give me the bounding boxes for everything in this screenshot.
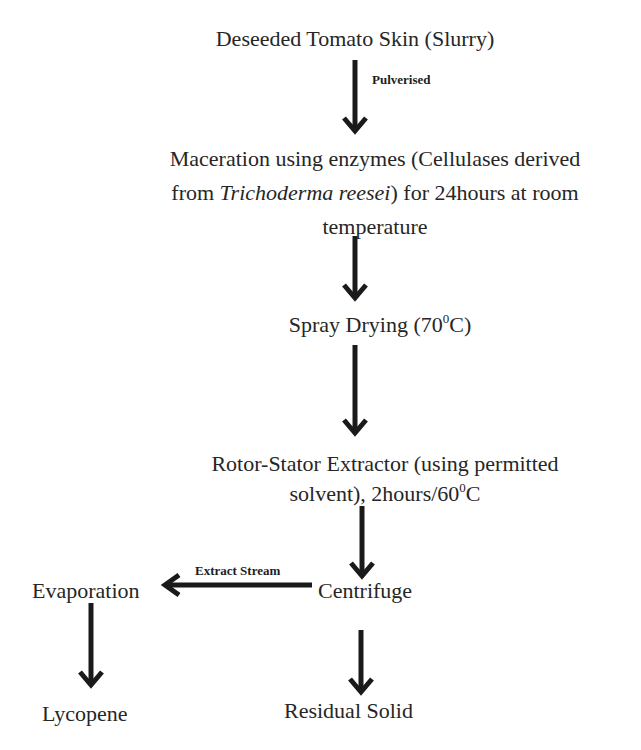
extractor-line-2-text: solvent), 2hours/60 — [289, 481, 459, 506]
node-residual-solid: Residual Solid — [284, 694, 413, 728]
arrow-down-icon — [344, 236, 366, 298]
organism-name: Trichoderma reesei — [220, 180, 391, 205]
spray-drying-suffix: C) — [449, 312, 471, 337]
maceration-line-2-prefix: from — [171, 180, 219, 205]
maceration-line-2: from Trichoderma reesei) for 24hours at … — [120, 176, 630, 210]
arrow-down-icon — [344, 60, 366, 131]
arrow-down-icon — [344, 345, 366, 433]
edge-label-pulverised: Pulverised — [372, 72, 431, 88]
node-evaporation: Evaporation — [32, 574, 140, 608]
flow-arrows — [0, 0, 641, 750]
maceration-line-3: temperature — [120, 210, 630, 244]
node-centrifuge: Centrifuge — [318, 574, 412, 608]
extractor-line-2: solvent), 2hours/600C — [170, 477, 600, 511]
arrow-down-icon — [350, 630, 372, 692]
extractor-line-1: Rotor-Stator Extractor (using permitted — [170, 447, 600, 481]
maceration-line-2-suffix: ) for 24hours at room — [390, 180, 578, 205]
spray-drying-text: Spray Drying (70 — [289, 312, 443, 337]
arrow-down-icon — [80, 603, 102, 685]
node-deseeded-tomato-skin: Deseeded Tomato Skin (Slurry) — [190, 22, 520, 56]
node-spray-drying: Spray Drying (700C) — [260, 308, 500, 342]
node-lycopene: Lycopene — [42, 697, 128, 731]
arrow-down-icon — [351, 506, 373, 576]
extractor-line-2-suffix: C — [466, 481, 481, 506]
node-maceration: Maceration using enzymes (Cellulases der… — [120, 142, 630, 244]
maceration-line-1: Maceration using enzymes (Cellulases der… — [120, 142, 630, 176]
node-rotor-stator-extractor: Rotor-Stator Extractor (using permitted … — [170, 447, 600, 511]
edge-label-extract-stream: Extract Stream — [195, 563, 280, 579]
